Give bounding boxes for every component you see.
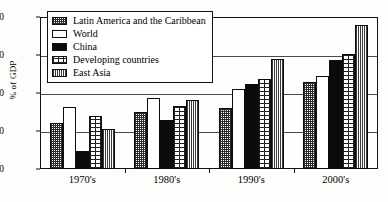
bar <box>316 76 329 169</box>
bar <box>271 59 284 169</box>
legend-item-label: Latin America and the Caribbean <box>73 15 206 26</box>
chart-legend: Latin America and the CaribbeanWorldChin… <box>47 11 213 83</box>
bar <box>329 60 342 169</box>
bar <box>303 82 316 169</box>
y-axis-tick-label: 0 <box>0 164 4 174</box>
bar <box>76 151 89 169</box>
x-axis-tick-label: 1970's <box>37 174 127 185</box>
legend-item-label: East Asia <box>73 67 111 78</box>
bar <box>342 54 355 169</box>
bar <box>245 84 258 169</box>
bar <box>147 98 160 169</box>
bar-chart: % of GDP 010203040 1970's1980's1990's200… <box>0 0 388 202</box>
y-axis-tick-mark <box>36 93 40 94</box>
legend-swatch-icon <box>52 69 67 77</box>
bar <box>232 89 245 169</box>
bar <box>160 120 173 169</box>
bar <box>173 106 186 169</box>
legend-item: Developing countries <box>52 53 206 66</box>
y-axis-tick-mark <box>36 169 40 170</box>
y-axis-tick-label: 10 <box>0 126 4 136</box>
y-axis-tick-mark <box>36 131 40 132</box>
legend-swatch-icon <box>52 17 67 25</box>
legend-item-label: World <box>73 28 98 39</box>
bar <box>102 129 115 169</box>
legend-item: Latin America and the Caribbean <box>52 14 206 27</box>
legend-item-label: Developing countries <box>73 54 159 65</box>
x-axis-tick-mark <box>294 169 295 173</box>
x-axis-tick-label: 2000's <box>291 174 381 185</box>
y-axis-tick-mark <box>36 55 40 56</box>
legend-item: East Asia <box>52 66 206 79</box>
bar <box>63 107 76 169</box>
y-axis-tick-label: 20 <box>0 88 4 98</box>
legend-swatch-icon <box>52 43 67 51</box>
y-axis-tick-label: 40 <box>0 12 4 22</box>
legend-swatch-icon <box>52 56 67 64</box>
x-axis-tick-mark <box>125 169 126 173</box>
bar <box>355 25 368 169</box>
legend-item: China <box>52 40 206 53</box>
bar <box>219 108 232 169</box>
bar <box>258 79 271 169</box>
bar <box>50 123 63 169</box>
legend-item-label: China <box>73 41 97 52</box>
bar <box>186 100 199 169</box>
y-axis-tick-label: 30 <box>0 50 4 60</box>
bar <box>134 112 147 169</box>
legend-swatch-icon <box>52 30 67 38</box>
bar <box>89 116 102 169</box>
y-axis-title: % of GDP <box>8 45 18 115</box>
x-axis-tick-label: 1980's <box>122 174 212 185</box>
x-axis-tick-mark <box>209 169 210 173</box>
y-axis-tick-mark <box>36 17 40 18</box>
legend-item: World <box>52 27 206 40</box>
x-axis-tick-label: 1990's <box>206 174 296 185</box>
